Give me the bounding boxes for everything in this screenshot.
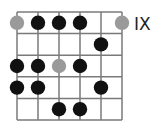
note-dot: [31, 16, 45, 30]
note-dot: [94, 80, 108, 94]
note-dot: [52, 16, 66, 30]
fret-position-label: IX: [134, 14, 151, 34]
note-dot: [94, 37, 108, 51]
note-dot: [73, 59, 87, 73]
note-dot: [73, 102, 87, 116]
note-dot: [10, 59, 24, 73]
note-dot: [73, 16, 87, 30]
root-note-dot: [10, 16, 24, 30]
note-dot: [31, 59, 45, 73]
note-dot: [52, 102, 66, 116]
note-dot: [10, 80, 24, 94]
root-note-dot: [115, 16, 129, 30]
note-dot: [31, 80, 45, 94]
root-note-dot: [52, 59, 66, 73]
fretboard-diagram: [0, 0, 155, 129]
